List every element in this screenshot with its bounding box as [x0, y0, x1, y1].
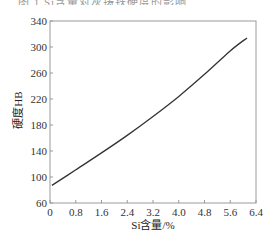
y-tick-label: 300: [31, 41, 48, 53]
x-tick-label: 2.4: [120, 206, 134, 218]
y-tick-label: 340: [31, 15, 48, 27]
x-tick-label: 3.2: [146, 206, 160, 218]
y-tick-label: 100: [31, 171, 48, 183]
plot-frame: [50, 21, 256, 203]
y-axis-label: 硬度HB: [11, 91, 24, 128]
y-tick-label: 260: [31, 67, 48, 79]
x-tick-label: 1.6: [95, 206, 109, 218]
x-tick-label: 5.6: [223, 206, 237, 218]
x-tick-label: 4.0: [172, 206, 186, 218]
x-axis-label: Si含量/%: [131, 218, 174, 231]
chart: 60100140180220260300340 00.81.62.43.24.0…: [0, 0, 276, 240]
y-tick-label: 140: [31, 145, 48, 157]
x-tick-label: 6.4: [249, 206, 263, 218]
x-tick-label: 0: [47, 206, 53, 218]
x-tick-label: 0.8: [69, 206, 83, 218]
y-tick-label: 180: [31, 119, 48, 131]
y-tick-label: 220: [31, 93, 48, 105]
y-tick-label: 60: [36, 197, 48, 209]
x-tick-label: 4.8: [198, 206, 212, 218]
hardness-curve: [52, 38, 247, 186]
